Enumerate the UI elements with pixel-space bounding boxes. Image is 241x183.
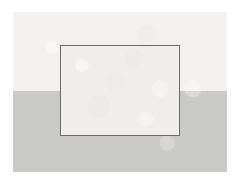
outline-rectangle: [60, 45, 180, 136]
scene-panel: [13, 12, 227, 172]
figure-canvas: [0, 0, 241, 183]
rectangle-texture-overlay: [61, 46, 179, 135]
